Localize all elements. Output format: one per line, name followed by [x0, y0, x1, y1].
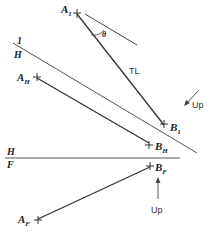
label-bf: BF — [154, 161, 167, 176]
line-af-bf — [38, 167, 150, 219]
label-b1: B1 — [169, 121, 181, 136]
label-a1: A1 — [60, 3, 72, 18]
label-bh: BH — [154, 140, 168, 155]
fold-label-1: 1 — [17, 35, 22, 46]
fold-label-h-top: H — [13, 49, 23, 60]
up-label-2: Up — [151, 205, 163, 215]
line-ah-bh — [37, 78, 149, 143]
point-markers — [33, 9, 168, 224]
reference-line — [85, 14, 137, 45]
up-label-1: Up — [192, 100, 204, 110]
fold-line-h-1 — [13, 43, 197, 153]
label-ah: AH — [16, 71, 30, 86]
angle-label: θ — [102, 30, 107, 39]
diagram-canvas: A1 B1 AH BH AF BF 1 H H F TL θ Up Up — [0, 0, 214, 232]
fold-label-h: H — [6, 146, 16, 157]
fold-label-f: F — [6, 159, 14, 170]
true-length-label: TL — [129, 66, 140, 76]
label-af: AF — [17, 213, 30, 228]
